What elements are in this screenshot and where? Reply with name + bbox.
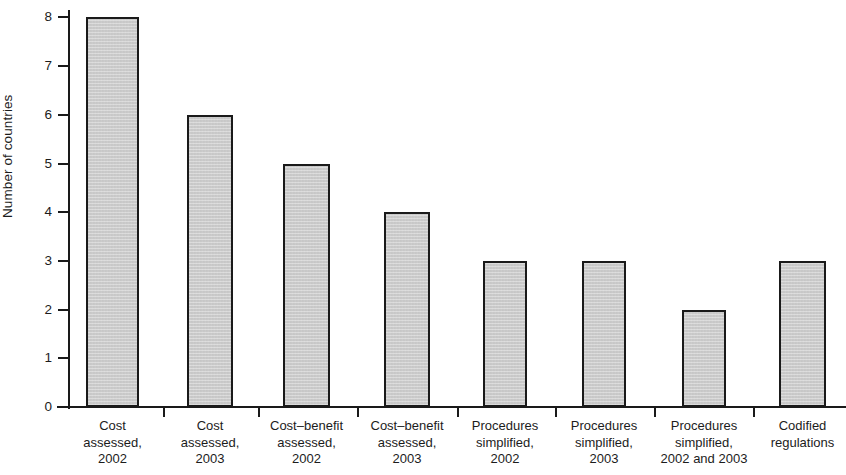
category-label-line: 2002 xyxy=(450,451,560,468)
category-label-line: 2003 xyxy=(549,451,659,468)
x-tick-mark xyxy=(163,408,165,417)
y-axis-line xyxy=(68,10,70,409)
x-tick-mark xyxy=(457,408,459,417)
category-label-line: Cost xyxy=(58,418,168,435)
x-tick-mark xyxy=(555,408,557,417)
category-label: Cost–benefitassessed,2003 xyxy=(352,418,462,468)
category-label-line: Codified xyxy=(748,418,846,435)
category-label-line: regulations xyxy=(748,435,846,452)
y-tick-mark xyxy=(58,114,68,116)
category-label-line: 2003 xyxy=(155,451,265,468)
category-label-line: Procedures xyxy=(549,418,659,435)
category-label-line: Procedures xyxy=(450,418,560,435)
category-label-line: assessed, xyxy=(155,435,265,452)
y-tick-label: 4 xyxy=(30,205,52,219)
y-tick-label: 7 xyxy=(30,59,52,73)
x-tick-mark xyxy=(654,408,656,417)
category-label-line: assessed, xyxy=(58,435,168,452)
category-label: Proceduressimplified,2003 xyxy=(549,418,659,468)
category-label-line: Cost–benefit xyxy=(252,418,362,435)
category-label-line: 2002 and 2003 xyxy=(649,451,759,468)
bar xyxy=(483,261,527,407)
category-label: Proceduressimplified,2002 and 2003 xyxy=(649,418,759,468)
bar xyxy=(779,261,826,407)
y-tick-label: 0 xyxy=(30,400,52,414)
category-label-line: 2003 xyxy=(352,451,462,468)
category-label-line: Cost–benefit xyxy=(352,418,462,435)
category-label-line: simplified, xyxy=(450,435,560,452)
y-tick-label: 8 xyxy=(30,10,52,24)
x-tick-mark xyxy=(753,408,755,417)
y-tick-mark xyxy=(58,406,68,408)
category-label: Costassessed,2003 xyxy=(155,418,265,468)
y-tick-label: 6 xyxy=(30,108,52,122)
y-axis-title: Number of countries xyxy=(0,18,15,218)
category-label: Costassessed,2002 xyxy=(58,418,168,468)
category-label-line: simplified, xyxy=(649,435,759,452)
y-tick-mark xyxy=(58,260,68,262)
category-label-line: simplified, xyxy=(549,435,659,452)
category-label-line: assessed, xyxy=(352,435,462,452)
y-tick-mark xyxy=(58,309,68,311)
y-tick-mark xyxy=(58,163,68,165)
y-tick-mark xyxy=(58,16,68,18)
bar xyxy=(187,115,233,407)
category-label-line: assessed, xyxy=(252,435,362,452)
y-tick-label: 5 xyxy=(30,157,52,171)
bar xyxy=(682,310,726,407)
category-label-line: Cost xyxy=(155,418,265,435)
x-tick-mark xyxy=(357,408,359,417)
category-label-line: 2002 xyxy=(58,451,168,468)
y-tick-label: 2 xyxy=(30,303,52,317)
x-axis-line xyxy=(57,406,846,408)
y-tick-label: 3 xyxy=(30,254,52,268)
bar xyxy=(582,261,626,407)
x-tick-mark xyxy=(258,408,260,417)
y-tick-mark xyxy=(58,211,68,213)
bar xyxy=(283,164,330,408)
category-label: Cost–benefitassessed,2002 xyxy=(252,418,362,468)
bar-chart: Number of countries 012345678 Costassess… xyxy=(0,0,846,475)
y-tick-label: 1 xyxy=(30,351,52,365)
category-label: Codifiedregulations xyxy=(748,418,846,451)
y-tick-mark xyxy=(58,65,68,67)
category-label-line: Procedures xyxy=(649,418,759,435)
y-tick-mark xyxy=(58,357,68,359)
category-label: Proceduressimplified,2002 xyxy=(450,418,560,468)
bar xyxy=(384,212,430,407)
bar xyxy=(86,17,139,407)
category-label-line: 2002 xyxy=(252,451,362,468)
